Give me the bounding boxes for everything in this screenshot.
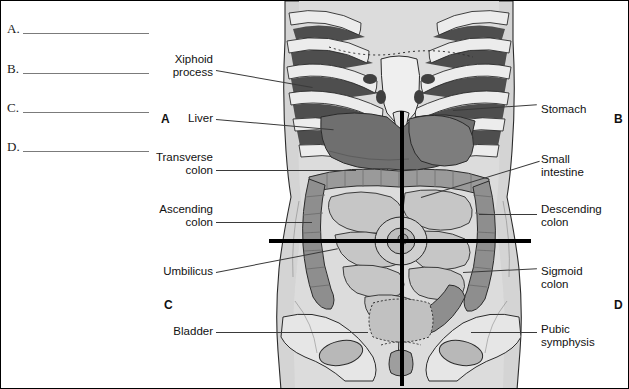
label-bladder: Bladder (151, 325, 213, 338)
answer-line-d[interactable] (23, 151, 149, 152)
quadrant-label-c: C (164, 298, 173, 312)
label-liver: Liver (161, 112, 213, 125)
answer-letter-a: A. (7, 19, 20, 39)
abdomen-illustration (269, 1, 529, 389)
leader-bladder (216, 332, 368, 333)
label-sigmoid-colon: Sigmoid colon (541, 265, 621, 291)
label-descending-colon: Descending colon (541, 203, 627, 229)
label-transverse-colon: Transverse colon (143, 151, 213, 177)
answer-letter-d: D. (7, 137, 20, 157)
label-pubic-symphysis: Pubic symphysis (541, 323, 625, 349)
quadrant-label-d: D (614, 298, 623, 312)
answer-line-a[interactable] (23, 33, 149, 34)
label-stomach: Stomach (541, 103, 621, 116)
answer-letter-b: B. (7, 59, 19, 79)
leader-transverse-colon (216, 170, 356, 171)
label-umbilicus: Umbilicus (141, 265, 213, 278)
leader-pubic-symphysis (471, 332, 537, 333)
leader-descending-colon (479, 214, 537, 215)
median-plane-line (400, 111, 404, 386)
label-small-intestine: Small intestine (541, 153, 623, 179)
answer-line-b[interactable] (23, 73, 149, 74)
answer-letter-c: C. (7, 98, 19, 118)
answer-line-c[interactable] (23, 112, 149, 113)
label-ascending-colon: Ascending colon (139, 203, 213, 229)
stomach-organ (409, 115, 474, 166)
diagram-page: A. B. C. D. A B C D (0, 0, 629, 389)
label-xiphoid-process: Xiphoid process (151, 53, 213, 79)
leader-ascending-colon (216, 222, 312, 223)
